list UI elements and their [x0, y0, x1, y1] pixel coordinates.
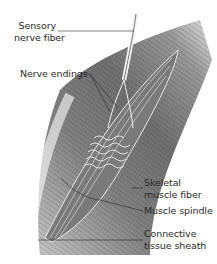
label-line: Connective	[144, 228, 206, 240]
label-line: Sensory	[14, 20, 56, 32]
label-line: nerve fiber	[14, 32, 56, 44]
label-skeletal-muscle-fiber: Skeletal muscle fiber	[144, 177, 202, 201]
label-connective-tissue-sheath: Connective tissue sheath	[144, 228, 206, 252]
label-sensory-nerve-fiber: Sensory nerve fiber	[14, 20, 56, 44]
label-line: Skeletal	[144, 177, 202, 189]
label-line: muscle fiber	[144, 189, 202, 201]
label-line: tissue sheath	[144, 240, 206, 252]
label-nerve-endings: Nerve endings	[20, 68, 88, 80]
label-muscle-spindle: Muscle spindle	[144, 205, 213, 217]
label-line: Muscle spindle	[144, 205, 213, 217]
label-line: Nerve endings	[20, 68, 88, 80]
